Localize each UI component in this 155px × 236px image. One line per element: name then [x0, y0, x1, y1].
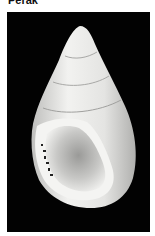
specimen-photo: [7, 12, 150, 232]
shell-image: [7, 12, 150, 232]
figure-caption: Perak: [8, 0, 38, 6]
